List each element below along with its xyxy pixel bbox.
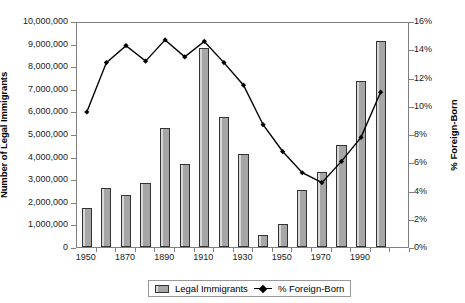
y-tick-label-right: 14% (414, 45, 450, 54)
y-axis-title-right: % Foreign-Born (448, 22, 464, 248)
x-tick-label: 1970 (299, 252, 343, 262)
x-tick-label: 1910 (181, 252, 225, 262)
immigration-chart: Number of Legal Immigrants % Foreign-Bor… (0, 0, 465, 303)
y-tick-mark-left (71, 248, 76, 249)
y-tick-label-right: 6% (414, 158, 450, 167)
y-tick-label-right: 12% (414, 74, 450, 83)
legend-label-legal-immigrants: Legal Immigrants (175, 283, 248, 294)
x-tick-label: 1870 (103, 252, 147, 262)
chart-legend: Legal Immigrants % Foreign-Born (148, 280, 351, 297)
y-tick-label-right: 10% (414, 102, 450, 111)
x-tick-label: 1950 (64, 252, 108, 262)
y-tick-label-left: 9,000,000 (2, 40, 68, 49)
legend-swatch-legal-immigrants (155, 285, 169, 293)
y-tick-label-left: 8,000,000 (2, 62, 68, 71)
y-tick-label-left: 2,000,000 (2, 198, 68, 207)
legend-label-foreign-born: % Foreign-Born (278, 283, 345, 294)
foreign-born-data-point (378, 90, 383, 95)
y-tick-label-right: 2% (414, 215, 450, 224)
foreign-born-data-point (84, 109, 89, 114)
y-tick-label-right: 8% (414, 130, 450, 139)
plot-area (76, 22, 409, 248)
x-tick-label: 1930 (221, 252, 265, 262)
y-tick-label-left: 3,000,000 (2, 175, 68, 184)
y-tick-label-right: 16% (414, 17, 450, 26)
y-tick-label-left: 0 (2, 243, 68, 252)
y-tick-label-left: 6,000,000 (2, 107, 68, 116)
y-tick-label-left: 1,000,000 (2, 220, 68, 229)
y-tick-label-left: 10,000,000 (2, 17, 68, 26)
legend-marker-foreign-born (254, 285, 272, 293)
y-tick-label-left: 7,000,000 (2, 85, 68, 94)
y-tick-label-left: 4,000,000 (2, 153, 68, 162)
x-tick-label: 1990 (338, 252, 382, 262)
y-tick-label-left: 5,000,000 (2, 130, 68, 139)
x-tick-label: 1890 (142, 252, 186, 262)
x-tick-label: 1950 (260, 252, 304, 262)
foreign-born-line-series (77, 23, 410, 249)
y-tick-label-right: 4% (414, 187, 450, 196)
foreign-born-line (87, 40, 381, 183)
y-tick-label-right: 0% (414, 243, 450, 252)
